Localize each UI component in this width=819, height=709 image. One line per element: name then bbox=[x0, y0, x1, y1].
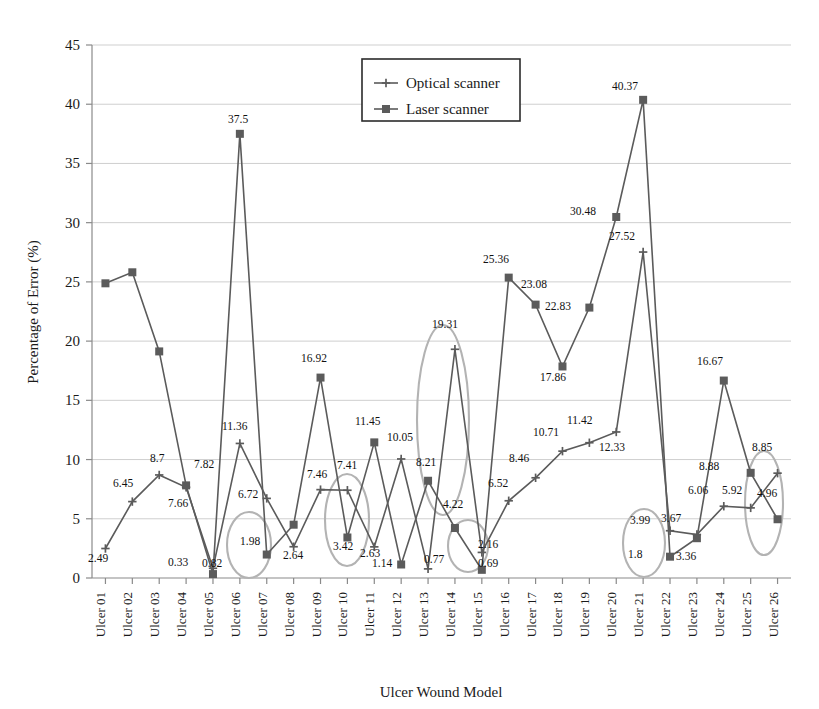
y-tick-label: 0 bbox=[73, 570, 81, 586]
data-point-marker bbox=[370, 438, 378, 446]
data-label: 0.33 bbox=[168, 556, 188, 568]
legend-label-0: Optical scanner bbox=[406, 75, 500, 91]
highlight-ellipse-ulcer14 bbox=[417, 325, 469, 515]
data-label: 1.98 bbox=[240, 535, 260, 547]
series-lines-group bbox=[105, 100, 777, 574]
x-tick-label: Ulcer 03 bbox=[147, 592, 162, 637]
data-label: 2.49 bbox=[88, 552, 108, 564]
data-label: 0.69 bbox=[478, 557, 498, 569]
x-tick-label: Ulcer 15 bbox=[470, 592, 485, 637]
data-point-marker bbox=[666, 553, 674, 561]
data-label: 4.96 bbox=[757, 487, 777, 499]
y-tick-label: 20 bbox=[65, 333, 80, 349]
data-point-marker bbox=[101, 279, 109, 287]
x-tick-label: Ulcer 06 bbox=[228, 592, 243, 638]
data-label: 7.66 bbox=[168, 497, 188, 509]
y-tick-label: 15 bbox=[65, 392, 80, 408]
data-point-marker bbox=[720, 377, 728, 385]
x-tick-label: Ulcer 13 bbox=[416, 592, 431, 637]
chart-legend[interactable]: Optical scannerLaser scanner bbox=[362, 59, 520, 121]
data-label: 8.46 bbox=[509, 452, 529, 464]
x-tick-label: Ulcer 24 bbox=[712, 592, 727, 638]
data-label: 8.21 bbox=[416, 456, 436, 468]
data-point-marker bbox=[182, 481, 190, 489]
data-point-marker bbox=[397, 560, 405, 568]
x-tick-label: Ulcer 01 bbox=[93, 592, 108, 637]
data-label: 4.22 bbox=[443, 498, 463, 510]
data-label: 30.48 bbox=[570, 205, 596, 217]
data-point-marker bbox=[263, 551, 271, 559]
data-point-marker bbox=[693, 534, 701, 542]
x-tick-label: Ulcer 02 bbox=[120, 592, 135, 637]
x-tick-label: Ulcer 23 bbox=[685, 592, 700, 637]
legend-label-1: Laser scanner bbox=[406, 101, 489, 117]
x-tick-label: Ulcer 26 bbox=[766, 592, 781, 638]
data-label: 2.64 bbox=[283, 549, 303, 561]
y-tick-label: 45 bbox=[65, 37, 80, 53]
data-label: 27.52 bbox=[609, 230, 635, 242]
highlight-ellipse-ulcer26 bbox=[745, 451, 783, 555]
data-point-marker bbox=[317, 374, 325, 382]
data-label: 7.82 bbox=[194, 458, 214, 470]
data-label: 8.85 bbox=[752, 441, 772, 453]
data-label: 37.5 bbox=[228, 113, 248, 125]
data-label: 6.72 bbox=[238, 488, 258, 500]
x-tick-label: Ulcer 04 bbox=[174, 592, 189, 638]
x-tick-label: Ulcer 25 bbox=[739, 592, 754, 637]
x-tick-label: Ulcer 18 bbox=[550, 592, 565, 637]
data-label: 19.31 bbox=[432, 318, 458, 330]
y-tick-label: 10 bbox=[65, 452, 80, 468]
legend-marker-square bbox=[382, 105, 390, 113]
data-labels-group: 2.496.458.77.660.337.820.8237.511.366.72… bbox=[88, 80, 777, 569]
data-label: 0.82 bbox=[202, 557, 222, 569]
x-tick-label: Ulcer 10 bbox=[335, 592, 350, 637]
data-point-marker bbox=[585, 304, 593, 312]
x-tick-label: Ulcer 21 bbox=[631, 592, 646, 637]
data-label: 7.41 bbox=[337, 459, 357, 471]
series-line-laser-scanner bbox=[105, 100, 777, 574]
data-point-marker bbox=[639, 96, 647, 104]
data-label: 3.36 bbox=[676, 550, 696, 562]
data-point-marker bbox=[209, 570, 217, 578]
x-tick-label: Ulcer 17 bbox=[524, 592, 539, 638]
x-tick-label: Ulcer 12 bbox=[389, 592, 404, 637]
data-label: 6.45 bbox=[113, 477, 133, 489]
y-tick-label: 25 bbox=[65, 274, 80, 290]
data-point-marker bbox=[774, 515, 782, 523]
x-tick-label: Ulcer 07 bbox=[255, 592, 270, 638]
data-point-marker bbox=[747, 469, 755, 477]
data-point-marker bbox=[505, 274, 513, 282]
data-label: 17.86 bbox=[540, 371, 566, 383]
y-tick-label: 40 bbox=[65, 96, 80, 112]
x-tick-label: Ulcer 09 bbox=[309, 592, 324, 637]
data-point-marker bbox=[451, 524, 459, 532]
data-point-marker bbox=[155, 347, 163, 355]
data-label: 7.46 bbox=[307, 468, 327, 480]
data-point-marker bbox=[424, 477, 432, 485]
x-tick-label: Ulcer 19 bbox=[577, 592, 592, 637]
data-label: 8.7 bbox=[150, 452, 165, 464]
data-label: 23.08 bbox=[521, 278, 547, 290]
data-label: 6.06 bbox=[688, 484, 708, 496]
tickmarks-group bbox=[86, 45, 778, 584]
data-label: 11.42 bbox=[567, 414, 593, 426]
data-label: 10.71 bbox=[533, 426, 559, 438]
x-tick-label: Ulcer 11 bbox=[362, 592, 377, 637]
data-label: 3.99 bbox=[630, 514, 650, 526]
data-label: 10.05 bbox=[387, 431, 413, 443]
data-label: 22.83 bbox=[545, 300, 571, 312]
data-label: 16.92 bbox=[301, 352, 327, 364]
x-tick-label: Ulcer 16 bbox=[497, 592, 512, 638]
data-label: 0.77 bbox=[424, 553, 444, 565]
x-tick-label: Ulcer 20 bbox=[604, 592, 619, 637]
data-point-marker bbox=[612, 213, 620, 221]
data-point-marker bbox=[558, 362, 566, 370]
data-label: 6.52 bbox=[488, 477, 508, 489]
data-label: 3.42 bbox=[333, 540, 353, 552]
x-tick-label: Ulcer 14 bbox=[443, 592, 458, 638]
chart-container: 051015202530354045 Ulcer 01Ulcer 02Ulcer… bbox=[0, 0, 819, 709]
x-tick-label: Ulcer 08 bbox=[282, 592, 297, 637]
data-point-marker bbox=[128, 268, 136, 276]
x-axis-tick-labels: Ulcer 01Ulcer 02Ulcer 03Ulcer 04Ulcer 05… bbox=[93, 592, 780, 638]
data-label: 1.8 bbox=[628, 548, 643, 560]
